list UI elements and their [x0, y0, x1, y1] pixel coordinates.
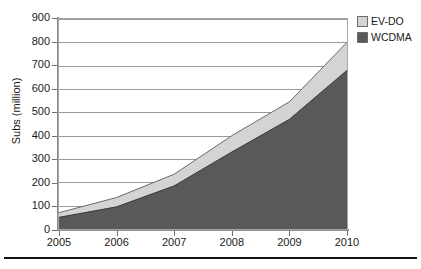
y-tick-200	[52, 183, 57, 184]
stacked-area-chart: Subs (million) 0100200300400500600700800…	[0, 0, 421, 243]
y-tick-400	[52, 136, 57, 137]
y-tick-900	[52, 18, 57, 19]
y-axis-tick-labels: 0100200300400500600700800900	[0, 0, 50, 243]
y-tick-label-600: 600	[4, 83, 50, 94]
chart-screenshot: Subs (million) 0100200300400500600700800…	[0, 0, 421, 269]
x-tick-label-2010: 2010	[325, 236, 369, 248]
y-tick-label-900: 900	[4, 12, 50, 23]
y-tick-100	[52, 206, 57, 207]
y-tick-label-0: 0	[4, 224, 50, 235]
x-tick-label-2005: 2005	[37, 236, 81, 248]
legend-swatch-icon	[357, 16, 368, 27]
x-tick-label-2009: 2009	[267, 236, 311, 248]
area-series-group	[59, 19, 347, 229]
y-tick-800	[52, 42, 57, 43]
y-tick-label-400: 400	[4, 130, 50, 141]
y-tick-700	[52, 65, 57, 66]
y-tick-600	[52, 89, 57, 90]
y-tick-label-500: 500	[4, 106, 50, 117]
y-tick-300	[52, 159, 57, 160]
legend-swatch-icon	[357, 32, 368, 43]
y-tick-label-200: 200	[4, 177, 50, 188]
x-tick-label-2007: 2007	[152, 236, 196, 248]
x-axis-tick-labels: 200520062007200820092010	[0, 236, 421, 252]
legend-label: EV-DO	[371, 16, 404, 27]
y-tick-0	[52, 230, 57, 231]
chart-legend: EV-DOWCDMA	[357, 16, 419, 48]
y-tick-label-100: 100	[4, 200, 50, 211]
y-tick-500	[52, 112, 57, 113]
x-tick-label-2006: 2006	[95, 236, 139, 248]
y-tick-label-300: 300	[4, 153, 50, 164]
bottom-divider-rule	[4, 257, 417, 259]
plot-area	[58, 18, 348, 230]
y-tick-label-700: 700	[4, 59, 50, 70]
x-tick-label-2008: 2008	[210, 236, 254, 248]
legend-item-wcdma[interactable]: WCDMA	[357, 32, 419, 43]
y-tick-label-800: 800	[4, 36, 50, 47]
legend-label: WCDMA	[371, 32, 412, 43]
legend-item-ev-do[interactable]: EV-DO	[357, 16, 419, 27]
